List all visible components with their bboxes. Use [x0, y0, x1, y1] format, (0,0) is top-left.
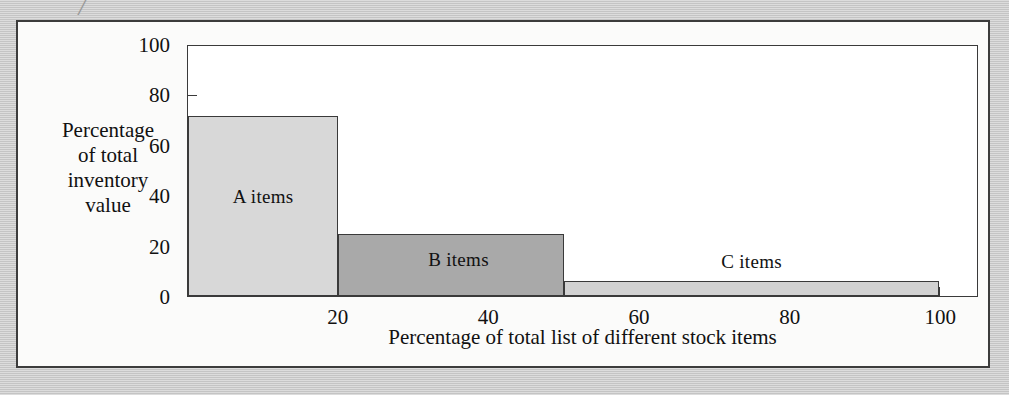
y-tick-label-100: 100	[139, 33, 171, 58]
y-tick-100	[188, 45, 197, 46]
y-tick-label-40: 40	[149, 184, 170, 209]
figure-panel: Percentage of total inventory value 0204…	[16, 20, 990, 368]
scan-artifact-mark: ╱	[78, 0, 88, 12]
y-tick-label-60: 60	[149, 133, 170, 158]
plot-area: A itemsB itemsC items	[187, 45, 978, 297]
bar-c-items	[564, 281, 940, 296]
y-tick-label-20: 20	[149, 234, 170, 259]
x-tick-100	[939, 287, 940, 296]
bar-label-c-items: C items	[721, 251, 782, 273]
y-tick-80	[188, 95, 197, 96]
bar-label-b-items: B items	[428, 249, 489, 271]
bar-label-a-items: A items	[233, 186, 294, 208]
y-tick-label-0: 0	[160, 285, 171, 310]
y-tick-label-80: 80	[149, 83, 170, 108]
x-axis-title: Percentage of total list of different st…	[187, 325, 978, 350]
